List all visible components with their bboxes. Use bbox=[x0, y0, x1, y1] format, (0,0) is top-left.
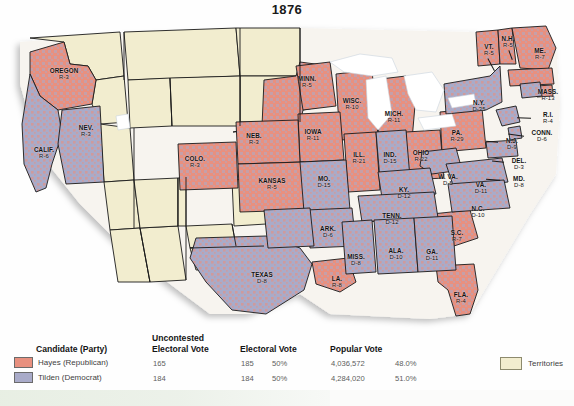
state-label-missouri: MO. D-15 bbox=[317, 175, 330, 189]
legend-swatch-republican bbox=[14, 357, 33, 368]
legend-candidate-tilden: Tilden (Democrat) bbox=[38, 373, 102, 382]
state-label-maryland: MD. D-8 bbox=[513, 175, 525, 189]
state-label-louisiana: LA. R-8 bbox=[332, 275, 342, 289]
legend-electoral-hayes: 185 bbox=[241, 359, 254, 368]
state-label-kansas: KANSAS R-5 bbox=[258, 177, 285, 191]
legend-electoral-tilden: 184 bbox=[241, 374, 254, 383]
state-nevada bbox=[58, 106, 104, 184]
legend-swatch-democrat bbox=[14, 372, 33, 383]
state-label-delaware: DEL. D-3 bbox=[512, 157, 527, 171]
footer-strip-right bbox=[330, 390, 574, 406]
state-label-ohio: OHIO R-22 bbox=[413, 149, 430, 163]
state-label-alabama: ALA. D-10 bbox=[388, 247, 403, 261]
state-label-nebraska: NEB. R-3 bbox=[246, 132, 261, 146]
state-label-newyork: N.Y. D-35 bbox=[472, 99, 485, 113]
state-texas-north-strip bbox=[264, 208, 314, 248]
legend-header-uncontested-line1: Uncontested bbox=[152, 333, 204, 343]
state-label-newjersey: N.J. D-9 bbox=[506, 137, 518, 151]
map-legend: Candidate (Party) Uncontested Electoral … bbox=[0, 330, 574, 390]
legend-swatch-territories bbox=[500, 357, 522, 370]
state-label-iowa: IOWA R-11 bbox=[304, 128, 321, 142]
legend-popular-tilden: 4,284,020 bbox=[331, 374, 365, 383]
state-label-northcarolina: N.C. D-10 bbox=[471, 205, 484, 219]
us-map-svg bbox=[0, 14, 574, 332]
state-label-arkansas: ARK. D-6 bbox=[320, 225, 336, 239]
state-label-kentucky: KY. D-12 bbox=[397, 186, 410, 200]
legend-popular-pct-tilden: 51.0% bbox=[395, 374, 417, 383]
state-label-indiana: IND. D-15 bbox=[383, 151, 396, 165]
state-label-virginia: VA. D-11 bbox=[475, 181, 488, 195]
legend-electoral-pct-tilden: 50% bbox=[272, 374, 287, 383]
legend-label-territories: Territories bbox=[528, 359, 563, 368]
legend-electoral-pct-hayes: 50% bbox=[272, 359, 287, 368]
great-salt-lake bbox=[116, 114, 130, 130]
state-label-florida: FLA. R-4 bbox=[454, 291, 468, 305]
legend-uncontested-tilden: 184 bbox=[153, 374, 166, 383]
legend-header-electoral: Electoral Vote bbox=[240, 344, 297, 354]
state-label-maine: ME. R-7 bbox=[534, 47, 546, 61]
state-label-massachusetts: MASS. R-13 bbox=[538, 88, 558, 102]
state-label-rhodeisland: R.I. R-4 bbox=[543, 111, 553, 125]
state-label-oregon: OREGON R-3 bbox=[50, 67, 79, 81]
state-label-michigan: MICH. R-11 bbox=[385, 110, 403, 124]
state-label-texas: TEXAS D-8 bbox=[251, 271, 273, 285]
state-label-california: CALIF. R-6 bbox=[34, 146, 54, 160]
legend-popular-pct-hayes: 48.0% bbox=[395, 359, 417, 368]
legend-header-uncontested-line2: Electoral Vote bbox=[152, 344, 209, 354]
state-label-newhampshire: N.H. R-5 bbox=[502, 35, 515, 49]
footer-strip bbox=[0, 390, 330, 406]
map-canvas: OREGON R-3 CALIF. R-6 NEV. R-3 COLO. R-3… bbox=[0, 14, 574, 332]
state-georgia bbox=[414, 216, 456, 272]
legend-header-popular: Popular Vote bbox=[330, 344, 382, 354]
state-label-minnesota: MINN. R-5 bbox=[298, 75, 316, 89]
legend-uncontested-hayes: 165 bbox=[153, 359, 166, 368]
state-label-mississippi: MISS. D-8 bbox=[347, 253, 365, 267]
legend-header-candidate: Candidate (Party) bbox=[36, 344, 107, 354]
state-label-tennessee: TENN. D-12 bbox=[382, 212, 401, 226]
legend-popular-hayes: 4,036,572 bbox=[331, 359, 365, 368]
state-label-southcarolina: S.C. R-7 bbox=[451, 229, 464, 243]
state-label-pennsylvania: PA. R-29 bbox=[450, 129, 463, 143]
state-label-illinois: ILL. R-21 bbox=[352, 151, 365, 165]
state-label-colorado: COLO. R-3 bbox=[185, 155, 205, 169]
legend-candidate-hayes: Hayes (Republican) bbox=[38, 358, 108, 367]
state-label-nevada: NEV. R-3 bbox=[79, 124, 94, 138]
electoral-map-page: 1876 bbox=[0, 0, 574, 406]
state-label-westvirginia: W. VA. D-5 bbox=[438, 173, 458, 187]
state-label-georgia: GA. D-11 bbox=[426, 248, 439, 262]
state-label-wisconsin: WISC. R-10 bbox=[343, 97, 362, 111]
state-label-connecticut: CONN. D-6 bbox=[532, 129, 553, 143]
state-label-vermont: VT. R-5 bbox=[484, 43, 494, 57]
